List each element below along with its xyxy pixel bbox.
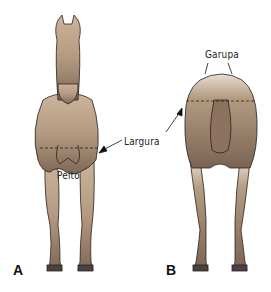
- horse-rear-view: [185, 74, 257, 271]
- label-garupa: Garupa: [205, 48, 239, 60]
- panel-label-a: A: [13, 262, 23, 278]
- label-largura: Largura: [124, 135, 160, 147]
- horse-front-view: [35, 15, 98, 271]
- label-peito: Peito: [57, 169, 80, 181]
- panel-label-b: B: [166, 262, 176, 278]
